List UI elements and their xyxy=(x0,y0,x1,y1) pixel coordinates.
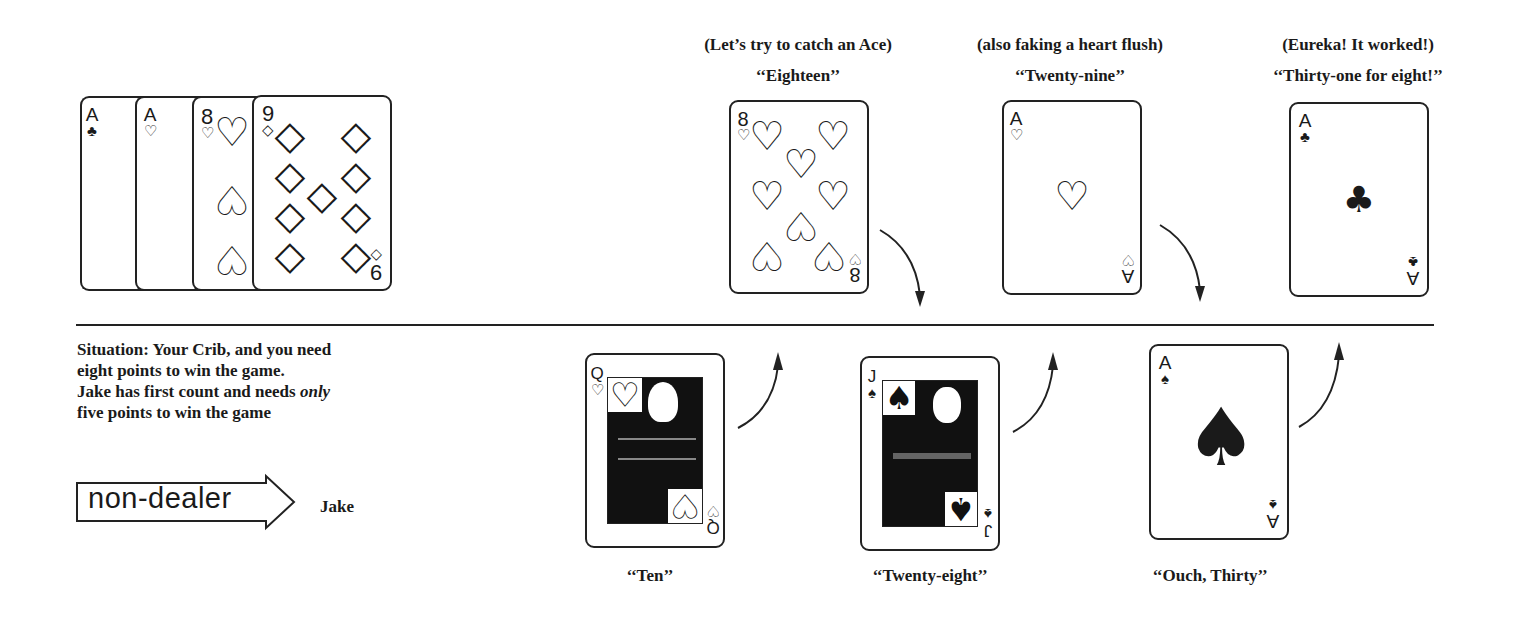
top-note-2: (also faking a heart flush) xyxy=(950,35,1190,55)
heart-icon: ♡ xyxy=(589,383,605,397)
top-note-3: (Eureka! It worked!) xyxy=(1238,35,1478,55)
spade-icon: ♠ xyxy=(1157,372,1173,386)
diamond-pip-icon: ◇ xyxy=(336,115,376,155)
club-icon: ♣ xyxy=(84,124,100,138)
opponent-card-queen-hearts[interactable]: Q♡ ♡ ♡ Q♡ xyxy=(585,353,725,548)
card-rank: A xyxy=(1267,511,1280,532)
diamond-pip-icon: ◇ xyxy=(336,155,376,195)
arrow-down-icon xyxy=(1155,220,1215,305)
arrow-down-icon xyxy=(875,225,935,310)
played-card-ace-hearts[interactable]: A♡ A♡ ♡ xyxy=(1002,100,1142,295)
club-icon: ♣ xyxy=(1405,255,1421,269)
top-call-3: ‘‘Thirty-one for eight!’’ xyxy=(1238,66,1478,86)
club-pip-icon: ♣ xyxy=(1339,180,1379,220)
heart-icon: ♡ xyxy=(142,124,158,138)
spade-icon: ♠ xyxy=(864,386,880,400)
card-rank: A xyxy=(1122,266,1135,287)
heart-icon: ♡ xyxy=(847,252,863,266)
heart-pip-icon: ♡ xyxy=(212,240,252,280)
bottom-call-1: ‘‘Ten’’ xyxy=(560,566,740,586)
diamond-pip-icon: ◇ xyxy=(270,235,310,275)
opponent-card-jack-spades[interactable]: J♠ ♠ ♠ J♠ xyxy=(860,356,1000,551)
spade-icon: ♠ xyxy=(1265,498,1281,512)
arrow-up-icon xyxy=(1010,350,1070,435)
card-rank: Q xyxy=(706,518,719,537)
heart-icon: ♡ xyxy=(1008,128,1024,142)
heart-pip-icon: ♡ xyxy=(212,180,252,220)
played-card-eight-hearts[interactable]: 8♡ 8♡ ♡ ♡ ♡ ♡ ♡ ♡ ♡ ♡ xyxy=(729,100,869,294)
situation-line-2: eight points to win the game. xyxy=(77,360,331,381)
opponent-card-ace-spades[interactable]: A♠ A♠ ♠ xyxy=(1149,344,1289,540)
heart-pip-icon: ♡ xyxy=(1052,176,1092,216)
arrow-up-icon xyxy=(1296,340,1356,430)
spade-icon: ♠ xyxy=(883,381,915,415)
card-rank: J xyxy=(984,521,993,540)
top-call-1: ‘‘Eighteen’’ xyxy=(678,66,918,86)
heart-icon: ♡ xyxy=(705,504,721,518)
queen-portrait-icon xyxy=(648,382,678,422)
diamond-pip-icon: ◇ xyxy=(336,195,376,235)
situation-text: Situation: Your Crib, and you need eight… xyxy=(77,339,331,423)
situation-line-3-text: Jake has first count and needs xyxy=(77,382,300,401)
situation-line-4: five points to win the game xyxy=(77,402,331,423)
card-rank: A xyxy=(1407,268,1420,289)
hand-card-nine-diamonds[interactable]: 9◇ 9◇ ◇ ◇ ◇ ◇ ◇ ◇ ◇ ◇ ◇ xyxy=(252,95,392,291)
arrow-up-icon xyxy=(735,350,795,435)
bottom-call-2: ‘‘Twenty-eight’’ xyxy=(830,566,1030,586)
spade-icon: ♠ xyxy=(980,507,996,521)
role-badge-label: non-dealer xyxy=(88,482,232,515)
club-icon: ♣ xyxy=(1297,130,1313,144)
jack-portrait-icon xyxy=(933,387,961,423)
played-card-ace-clubs[interactable]: A♣ A♣ ♣ xyxy=(1289,102,1429,297)
heart-icon: ♡ xyxy=(668,489,702,523)
heart-pip-icon: ♡ xyxy=(747,236,787,276)
diamond-pip-icon: ◇ xyxy=(270,115,310,155)
role-player-name: Jake xyxy=(320,497,354,517)
situation-line-3: Jake has first count and needs only xyxy=(77,381,331,402)
heart-icon: ♡ xyxy=(1120,253,1136,267)
top-note-1: (Let’s try to catch an Ace) xyxy=(678,35,918,55)
situation-line-1: Situation: Your Crib, and you need xyxy=(77,339,331,360)
situation-emphasis: only xyxy=(300,382,330,401)
spade-pip-icon: ♠ xyxy=(1181,398,1261,478)
heart-pip-icon: ♡ xyxy=(809,236,849,276)
heart-icon: ♡ xyxy=(608,378,642,412)
queen-face-art: ♡ ♡ xyxy=(607,377,703,524)
diamond-pip-icon: ◇ xyxy=(336,235,376,275)
heart-pip-icon: ♡ xyxy=(212,112,252,152)
divider-line xyxy=(76,324,1434,326)
top-call-2: ‘‘Twenty-nine’’ xyxy=(950,66,1190,86)
spade-icon: ♠ xyxy=(945,492,977,526)
bottom-call-3: ‘‘Ouch, Thirty’’ xyxy=(1110,566,1310,586)
jack-face-art: ♠ ♠ xyxy=(882,380,978,527)
